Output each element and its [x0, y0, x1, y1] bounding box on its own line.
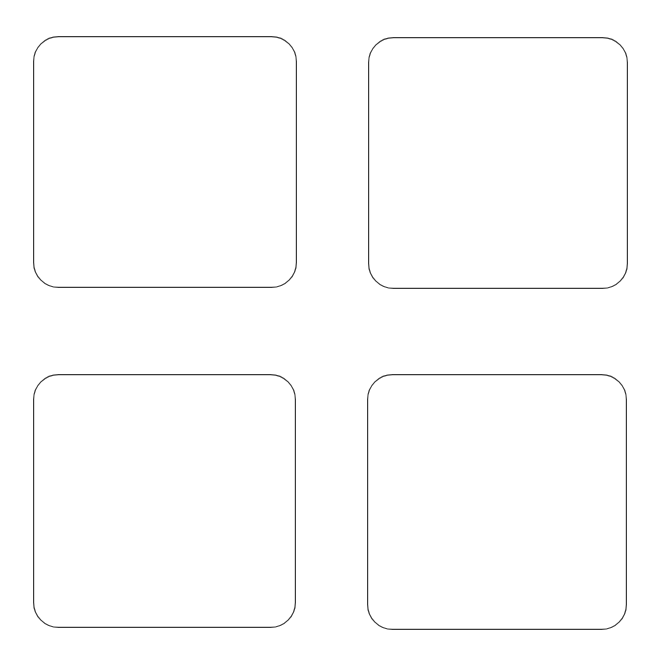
panel-outline-shape	[367, 374, 627, 630]
panel-grid-canvas	[0, 0, 659, 658]
panel-outline-shape	[33, 374, 296, 628]
panel-bottom-left[interactable]	[33, 374, 296, 628]
panel-bottom-right[interactable]	[367, 374, 627, 630]
panel-top-left[interactable]	[33, 36, 297, 288]
panel-top-right[interactable]	[368, 37, 628, 289]
panel-outline-shape	[33, 36, 297, 288]
panel-outline-shape	[368, 37, 628, 289]
